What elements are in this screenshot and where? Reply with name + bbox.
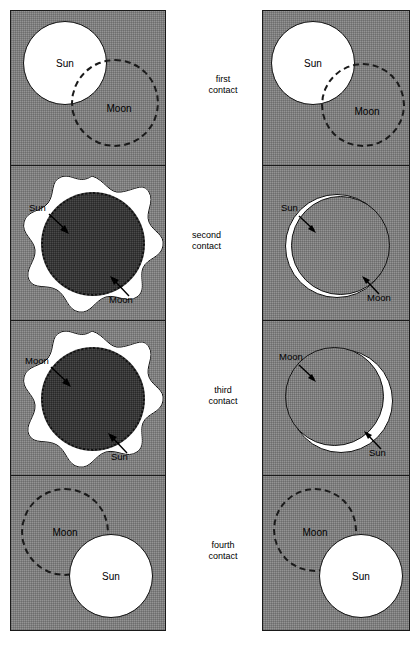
panel-left-first-contact: Sun Moon <box>10 10 166 166</box>
sun-arrow-icon <box>361 429 387 453</box>
stage-caption-line2: contact <box>192 241 266 252</box>
sun-arrow-icon <box>105 431 133 457</box>
stage-caption-third: third contact <box>186 385 260 407</box>
moon-arrow-icon <box>297 363 325 387</box>
sun-arrow-icon <box>47 212 77 238</box>
stage-caption-line2: contact <box>186 396 260 407</box>
panel-left-second-contact: Sun Moon <box>10 165 166 321</box>
moon-arrow-icon <box>359 274 385 298</box>
sun-label: Sun <box>102 571 120 582</box>
moon-callout-label: Moon <box>25 355 49 366</box>
stage-caption-fourth: fourth contact <box>186 540 260 562</box>
stage-caption-line1: second <box>192 230 266 241</box>
panel-right-second-contact: Sun Moon <box>262 165 410 321</box>
moon-callout-label: Moon <box>279 351 303 362</box>
total-eclipse-column: Sun Moon Sun Moon <box>10 10 166 635</box>
panel-right-fourth-contact: Moon Sun <box>262 475 410 631</box>
moon-label: Moon <box>52 527 77 538</box>
moon-label: Moon <box>354 106 379 117</box>
moon-arrow-icon <box>107 274 135 300</box>
stage-caption-line2: contact <box>186 551 260 562</box>
sun-callout-label: Sun <box>29 202 46 213</box>
stage-caption-second: second contact <box>186 230 266 252</box>
moon-arrow-icon <box>49 365 79 391</box>
panel-left-fourth-contact: Moon Sun <box>10 475 166 631</box>
sun-callout-label: Sun <box>281 202 298 213</box>
sun-arrow-icon <box>297 214 325 238</box>
panel-right-third-contact: Moon Sun <box>262 320 410 476</box>
stage-caption-line1: fourth <box>186 540 260 551</box>
panel-left-third-contact: Moon Sun <box>10 320 166 476</box>
stage-caption-line2: contact <box>186 85 260 96</box>
moon-label: Moon <box>106 103 131 114</box>
panel-right-first-contact: Sun Moon <box>262 10 410 166</box>
annular-eclipse-column: Sun Moon Sun Moon <box>262 10 410 635</box>
sun-label: Sun <box>56 58 74 69</box>
eclipse-figure: Sun Moon Sun Moon <box>0 0 414 645</box>
moon-label: Moon <box>302 527 327 538</box>
stage-caption-line1: first <box>186 74 260 85</box>
sun-label: Sun <box>304 58 322 69</box>
stage-caption-line1: third <box>186 385 260 396</box>
sun-label: Sun <box>352 571 370 582</box>
stage-caption-first: first contact <box>186 74 260 96</box>
